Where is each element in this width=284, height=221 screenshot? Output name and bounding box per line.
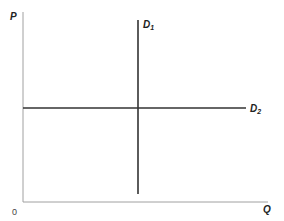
- d2-label-subscript: 2: [257, 108, 261, 115]
- d2-label: D2: [250, 104, 261, 115]
- y-axis-label: P: [10, 12, 17, 22]
- origin-label: 0: [12, 208, 17, 217]
- d1-label-subscript: 1: [150, 24, 154, 31]
- x-axis-label: Q: [263, 205, 271, 215]
- d1-label: D1: [143, 20, 154, 31]
- diagram-canvas: [0, 0, 284, 221]
